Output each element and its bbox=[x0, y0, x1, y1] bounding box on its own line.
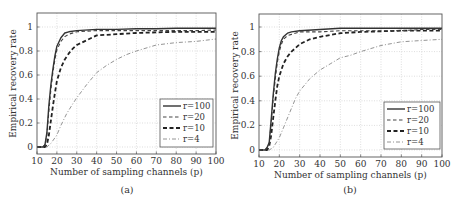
legend: r=100r=20r=10r=4 bbox=[160, 99, 213, 147]
y-tick-label: 0 bbox=[27, 142, 33, 152]
x-tick-label: 20 bbox=[274, 159, 286, 169]
y-tick-label: 0.2 bbox=[241, 120, 255, 130]
x-tick-label: 40 bbox=[91, 156, 103, 166]
legend-entry: r=10 bbox=[183, 123, 205, 133]
y-tick-label: 1 bbox=[27, 22, 33, 32]
legend-entry: r=20 bbox=[407, 115, 429, 125]
x-tick-label: 60 bbox=[131, 156, 143, 166]
x-tick-label: 30 bbox=[71, 156, 83, 166]
x-axis-label: Number of sampling channels (p) bbox=[274, 170, 427, 180]
x-tick-label: 90 bbox=[190, 156, 202, 166]
legend: r=100r=20r=10r=4 bbox=[384, 102, 440, 149]
x-tick-label: 100 bbox=[433, 159, 450, 169]
y-tick-label: 0 bbox=[249, 145, 255, 155]
x-tick-label: 30 bbox=[294, 159, 306, 169]
x-tick-label: 100 bbox=[207, 156, 224, 166]
legend-entry: r=10 bbox=[407, 126, 429, 136]
x-tick-label: 90 bbox=[416, 159, 428, 169]
x-tick-label: 60 bbox=[355, 159, 367, 169]
y-tick-label: 0.2 bbox=[19, 118, 33, 128]
legend-entry: r=100 bbox=[183, 101, 210, 111]
y-tick-label: 0.4 bbox=[241, 96, 256, 106]
legend-entry: r=4 bbox=[407, 137, 424, 147]
y-tick-label: 1 bbox=[249, 22, 255, 32]
x-tick-label: 20 bbox=[51, 156, 63, 166]
panel-caption: (a) bbox=[120, 184, 133, 195]
y-axis-label: Empirical recovery rate bbox=[8, 29, 18, 137]
x-tick-label: 70 bbox=[151, 156, 163, 166]
legend-entry: r=4 bbox=[183, 134, 200, 144]
y-tick-label: 0.8 bbox=[241, 47, 256, 57]
x-tick-label: 70 bbox=[375, 159, 387, 169]
y-axis-label: Empirical recovery rate bbox=[230, 31, 240, 139]
x-tick-label: 50 bbox=[335, 159, 347, 169]
legend-entry: r=100 bbox=[407, 104, 434, 114]
x-tick-label: 80 bbox=[396, 159, 408, 169]
figure: 10203040506070809010000.20.40.60.81Numbe… bbox=[0, 0, 462, 203]
y-tick-label: 0.8 bbox=[19, 46, 34, 56]
x-axis-label: Number of sampling channels (p) bbox=[50, 167, 203, 177]
chart-panel-b: 10203040506070809010000.20.40.60.81Numbe… bbox=[230, 14, 451, 195]
chart-panel-a: 10203040506070809010000.20.40.60.81Numbe… bbox=[8, 13, 225, 195]
y-tick-label: 0.6 bbox=[241, 71, 256, 81]
legend-entry: r=20 bbox=[183, 112, 205, 122]
y-tick-label: 0.6 bbox=[19, 70, 34, 80]
y-tick-label: 0.4 bbox=[19, 94, 34, 104]
x-tick-label: 40 bbox=[314, 159, 326, 169]
x-tick-label: 50 bbox=[111, 156, 123, 166]
panel-caption: (b) bbox=[343, 184, 357, 195]
x-tick-label: 10 bbox=[31, 156, 43, 166]
x-tick-label: 10 bbox=[253, 159, 265, 169]
x-tick-label: 80 bbox=[170, 156, 182, 166]
